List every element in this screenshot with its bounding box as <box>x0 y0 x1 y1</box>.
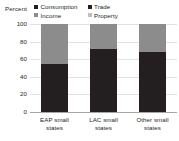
y-axis-tick: 0 <box>24 109 27 115</box>
bar-slot-eap <box>30 20 79 112</box>
bar-slot-lac <box>79 20 128 112</box>
bar-segment-income[interactable] <box>41 24 68 64</box>
x-axis-label-lac: LAC small states <box>79 116 128 131</box>
bar-slot-other <box>128 20 177 112</box>
x-axis-label-eap: EAP small states <box>30 116 79 131</box>
bar-segment-consumption[interactable] <box>90 49 117 112</box>
bars-container <box>30 20 177 112</box>
chart-legend: Consumption Trade Income Property <box>34 2 118 19</box>
legend-label: Trade <box>94 3 110 11</box>
y-axis-tick: 40 <box>20 74 27 80</box>
x-axis-label-line: LAC small <box>79 116 128 124</box>
square-marker-icon <box>34 5 38 9</box>
y-axis-unit-label: Percent <box>0 2 27 12</box>
y-axis-tick: 100 <box>17 21 27 27</box>
x-axis-label-line: EAP small <box>30 116 79 124</box>
x-axis-label-line: states <box>128 124 177 132</box>
legend-item-consumption: Consumption <box>34 3 78 11</box>
square-marker-icon <box>88 13 92 17</box>
y-axis-tick: 20 <box>20 91 27 97</box>
x-axis-label-line: states <box>30 124 79 132</box>
legend-label: Income <box>41 12 62 20</box>
y-axis-tick: 60 <box>20 56 27 62</box>
legend-label: Consumption <box>41 3 78 11</box>
square-marker-icon <box>34 13 38 17</box>
x-axis-label-line: Other small <box>128 116 177 124</box>
stacked-bar[interactable] <box>41 24 68 112</box>
legend-item-income: Income <box>34 12 78 20</box>
x-axis-baseline <box>30 112 177 113</box>
chart-header: Percent Consumption Trade Income Propert… <box>0 2 179 22</box>
bar-segment-consumption[interactable] <box>139 52 166 112</box>
stacked-bar[interactable] <box>139 24 166 112</box>
x-axis-label-line: states <box>79 124 128 132</box>
stacked-bar-chart: Percent Consumption Trade Income Propert… <box>0 0 179 141</box>
legend-item-trade: Trade <box>88 3 118 11</box>
square-marker-icon <box>88 5 92 9</box>
bar-segment-income[interactable] <box>90 24 117 49</box>
bar-segment-income[interactable] <box>139 24 166 52</box>
stacked-bar[interactable] <box>90 24 117 112</box>
x-axis-labels: EAP small states LAC small states Other … <box>30 116 177 131</box>
x-axis-label-other: Other small states <box>128 116 177 131</box>
y-axis-tick: 80 <box>20 38 27 44</box>
legend-label: Property <box>94 12 118 20</box>
legend-item-property: Property <box>88 12 118 20</box>
plot-area: 100 80 60 40 20 0 <box>0 20 179 115</box>
bar-segment-consumption[interactable] <box>41 64 68 112</box>
y-axis: 100 80 60 40 20 0 <box>0 20 30 115</box>
